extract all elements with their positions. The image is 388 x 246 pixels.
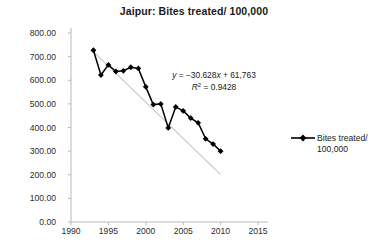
y-axis-tick-labels: 0.00100.00200.00300.00400.00500.00600.00… (30, 28, 71, 227)
x-tick-label: 2005 (174, 226, 193, 236)
legend-group (291, 135, 315, 142)
data-point-marker (158, 101, 164, 107)
data-series-group (91, 47, 224, 154)
data-point-marker (135, 66, 141, 72)
legend-label-line2: 100,000 (317, 144, 348, 155)
y-tick-label: 500.00 (30, 99, 57, 109)
y-tick-label: 700.00 (30, 52, 57, 62)
data-point-marker (143, 84, 149, 90)
data-point-marker (150, 102, 156, 108)
x-tick-label: 2015 (248, 226, 267, 236)
y-tick-label: 600.00 (30, 75, 57, 85)
data-point-marker (128, 64, 134, 70)
y-tick-label: 100.00 (30, 193, 57, 203)
x-axis-tick-labels: 199019952000200520102015 (61, 222, 267, 236)
y-tick-label: 200.00 (30, 170, 57, 180)
data-point-marker (120, 68, 126, 74)
legend-diamond-marker (300, 135, 307, 142)
legend-label-line1: Bites treated/ (317, 133, 368, 144)
x-tick-label: 2000 (136, 226, 155, 236)
chart-plot-area: 0.00100.00200.00300.00400.00500.00600.00… (0, 0, 388, 246)
chart-container: Jaipur: Bites treated/ 100,000 0.00100.0… (0, 0, 388, 246)
data-point-marker (91, 47, 97, 53)
trendline-r-squared: R2 = 0.9428 (192, 82, 237, 92)
trendline-equation: y = −30.628x + 61,763 (171, 70, 256, 80)
x-tick-label: 1995 (99, 226, 118, 236)
y-tick-label: 0.00 (39, 217, 56, 227)
series-line (93, 50, 220, 151)
data-point-marker (173, 104, 179, 110)
x-tick-label: 2010 (211, 226, 230, 236)
y-tick-label: 800.00 (30, 28, 57, 38)
x-tick-label: 1990 (61, 226, 80, 236)
y-tick-label: 300.00 (30, 146, 57, 156)
y-tick-label: 400.00 (30, 123, 57, 133)
